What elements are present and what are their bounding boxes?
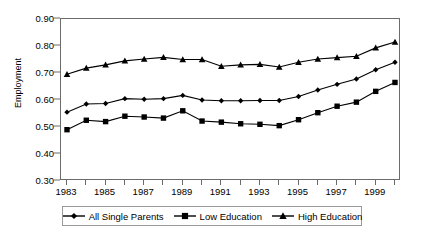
legend-marker-diamond-icon: [62, 210, 86, 222]
data-point-square: [373, 89, 378, 94]
x-axis-tick-mark: [182, 180, 183, 185]
x-axis-tick-label: 1995: [278, 186, 318, 197]
x-axis-tick-mark: [162, 180, 163, 185]
data-point-diamond: [219, 98, 224, 103]
legend-label: Low Education: [200, 211, 262, 222]
data-point-square: [103, 119, 108, 124]
y-axis-tick-label: 0.80: [20, 40, 54, 51]
x-axis-tick-mark: [355, 180, 356, 185]
x-axis-tick-mark: [394, 180, 395, 185]
x-axis-tick-mark: [259, 180, 260, 185]
x-axis-tick-label: 1987: [123, 186, 163, 197]
series-line: [67, 42, 395, 74]
y-axis-tick-mark: [54, 99, 60, 100]
data-point-square: [180, 108, 185, 113]
y-axis-tick-label: 0.40: [20, 148, 54, 159]
y-axis-tick-mark: [54, 126, 60, 127]
data-point-diamond: [238, 98, 243, 103]
x-axis-tick-mark: [220, 180, 221, 185]
employment-line-chart: Employment 0.300.400.500.600.700.800.90 …: [0, 0, 426, 242]
data-point-diamond: [84, 101, 89, 106]
data-point-square: [354, 99, 359, 104]
data-point-square: [296, 117, 301, 122]
data-point-diamond: [141, 96, 146, 101]
data-point-square: [334, 104, 339, 109]
legend-label: High Education: [298, 211, 362, 222]
data-point-square: [238, 121, 243, 126]
data-point-square: [141, 114, 146, 119]
data-point-square: [161, 115, 166, 120]
y-axis-tick-mark: [54, 18, 60, 19]
x-axis-tick-mark: [85, 180, 86, 185]
x-axis-tick-mark: [375, 180, 376, 185]
y-axis-tick-label: 0.30: [20, 175, 54, 186]
x-axis-tick-mark: [105, 180, 106, 185]
x-axis-tick-label: 1997: [316, 186, 356, 197]
x-axis-tick-label: 1999: [355, 186, 395, 197]
x-axis-tick-mark: [298, 180, 299, 185]
data-point-diamond: [277, 98, 282, 103]
legend-item: High Education: [271, 210, 362, 222]
data-point-square: [315, 110, 320, 115]
x-axis-tick-label: 1983: [46, 186, 86, 197]
y-axis-tick-label: 0.90: [20, 13, 54, 24]
data-point-diamond: [180, 93, 185, 98]
data-point-diamond: [199, 97, 204, 102]
data-point-diamond: [64, 109, 69, 114]
x-axis-tick-mark: [66, 180, 67, 185]
data-point-triangle: [392, 39, 399, 45]
x-axis-tick-mark: [336, 180, 337, 185]
data-point-square: [64, 127, 69, 132]
y-axis-tick-mark: [54, 153, 60, 154]
data-point-square: [257, 122, 262, 127]
data-point-square: [199, 118, 204, 123]
y-axis-tick-label: 0.70: [20, 67, 54, 78]
y-axis-tick-label: 0.50: [20, 121, 54, 132]
legend-label: All Single Parents: [89, 211, 164, 222]
data-point-diamond: [373, 67, 378, 72]
x-axis-tick-label: 1993: [239, 186, 279, 197]
legend-item: Low Education: [173, 210, 262, 222]
data-point-diamond: [354, 76, 359, 81]
plot-area: [60, 18, 400, 180]
y-axis-tick-mark: [54, 45, 60, 46]
y-axis-tick-labels: 0.300.400.500.600.700.800.90: [20, 0, 54, 242]
y-axis-tick-mark: [54, 180, 60, 181]
x-axis-tick-mark: [240, 180, 241, 185]
y-axis-tick-mark: [54, 72, 60, 73]
y-axis-tick-label: 0.60: [20, 94, 54, 105]
data-point-square: [392, 80, 397, 85]
plot-svg: [61, 19, 401, 181]
series-all-single-parents: [64, 60, 397, 115]
data-point-diamond: [257, 98, 262, 103]
data-point-square: [122, 114, 127, 119]
legend-marker-square-icon: [173, 210, 197, 222]
x-axis-tick-mark: [143, 180, 144, 185]
x-axis-tick-mark: [278, 180, 279, 185]
data-point-square: [277, 123, 282, 128]
legend-marker-triangle-icon: [271, 210, 295, 222]
legend-item: All Single Parents: [62, 210, 164, 222]
data-point-diamond: [296, 94, 301, 99]
data-point-diamond: [315, 87, 320, 92]
x-axis-tick-mark: [124, 180, 125, 185]
series-high-education: [64, 39, 399, 77]
series-low-education: [64, 80, 397, 133]
x-axis-tick-label: 1985: [85, 186, 125, 197]
data-point-diamond: [103, 101, 108, 106]
x-axis-tick-mark: [317, 180, 318, 185]
data-point-square: [219, 119, 224, 124]
x-axis-tick-label: 1991: [200, 186, 240, 197]
data-point-diamond: [392, 60, 397, 65]
data-point-diamond: [122, 96, 127, 101]
data-point-diamond: [334, 82, 339, 87]
chart-legend: All Single ParentsLow EducationHigh Educ…: [62, 206, 362, 226]
data-point-square: [84, 118, 89, 123]
data-point-diamond: [161, 96, 166, 101]
x-axis-tick-mark: [201, 180, 202, 185]
series-line: [67, 82, 395, 129]
x-axis-tick-label: 1989: [162, 186, 202, 197]
